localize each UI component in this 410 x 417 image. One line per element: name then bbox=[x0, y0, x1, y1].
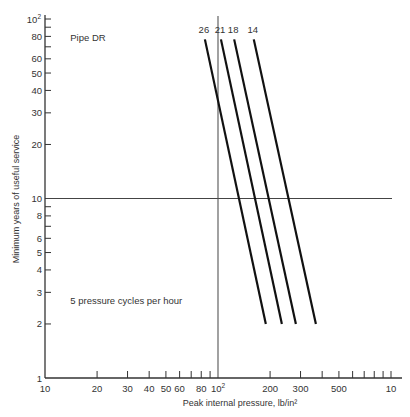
y-tick-label: 50 bbox=[31, 68, 42, 79]
y-tick-label: 5 bbox=[37, 247, 42, 258]
y-tick-label: 30 bbox=[31, 107, 42, 118]
y-tick-label: 1 bbox=[37, 373, 42, 384]
x-tick-label: 40 bbox=[144, 383, 155, 394]
x-tick-label: 300 bbox=[293, 383, 309, 394]
y-tick-label: 40 bbox=[31, 85, 42, 96]
x-tick-label: 10 bbox=[40, 383, 51, 394]
x-tick-label: 10 bbox=[386, 383, 397, 394]
dr-21-label: 21 bbox=[215, 24, 226, 35]
axes bbox=[45, 15, 402, 378]
dr-26-line bbox=[205, 39, 266, 324]
y-tick-label: 20 bbox=[31, 139, 42, 150]
y-tick-label: 102 bbox=[27, 13, 42, 25]
pressure-cycles-annotation: 5 pressure cycles per hour bbox=[70, 295, 182, 306]
chart: 1020304050608010220030050010 12345681020… bbox=[0, 0, 410, 417]
x-tick-label: 30 bbox=[122, 383, 133, 394]
x-tick-label: 500 bbox=[331, 383, 347, 394]
reference-lines bbox=[45, 16, 392, 378]
y-tick-label: 4 bbox=[37, 264, 42, 275]
dr-14-label: 14 bbox=[247, 24, 258, 35]
y-tick-label: 10 bbox=[31, 193, 42, 204]
x-tick-label: 80 bbox=[196, 383, 207, 394]
x-tick-label: 60 bbox=[174, 383, 185, 394]
dr-18-line bbox=[234, 39, 296, 324]
x-tick-label: 20 bbox=[92, 383, 103, 394]
y-tick-label: 80 bbox=[31, 31, 42, 42]
dr-14-line bbox=[254, 39, 316, 324]
dr-26-label: 26 bbox=[199, 24, 210, 35]
x-tick-label: 200 bbox=[262, 383, 278, 394]
y-tick-label: 8 bbox=[37, 210, 42, 221]
y-axis-title: Minimum years of useful service bbox=[11, 135, 21, 264]
dr-series-lines: 26211814 bbox=[199, 24, 316, 324]
pipe-dr-annotation: Pipe DR bbox=[70, 32, 106, 43]
annotations: Pipe DR5 pressure cycles per hour bbox=[70, 32, 182, 305]
y-tick-label: 3 bbox=[37, 287, 42, 298]
y-tick-label: 6 bbox=[37, 233, 42, 244]
x-tick-label: 102 bbox=[211, 382, 226, 394]
x-axis-title: Peak internal pressure, lb/in² bbox=[183, 398, 298, 408]
dr-21-line bbox=[221, 39, 282, 324]
dr-18-label: 18 bbox=[228, 24, 239, 35]
x-tick-label: 50 bbox=[161, 383, 172, 394]
y-tick-label: 2 bbox=[37, 318, 42, 329]
y-tick-label: 60 bbox=[31, 53, 42, 64]
